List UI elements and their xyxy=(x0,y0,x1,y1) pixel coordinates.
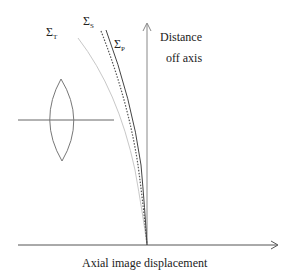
field-curvature-diagram: ΣT ΣS ΣP Distance off axis Axial image d… xyxy=(0,0,293,279)
horizontal-axis-label: Axial image displacement xyxy=(82,256,208,270)
label-sigma-t: ΣT xyxy=(46,25,58,41)
vertical-axis-label-line1: Distance xyxy=(160,30,202,44)
surface-sigma-t-curve xyxy=(78,38,147,245)
surface-sigma-s-curve xyxy=(101,31,147,245)
vertical-axis-label-line2: off axis xyxy=(166,51,202,65)
label-sigma-p: ΣP xyxy=(114,37,125,53)
label-sigma-s: ΣS xyxy=(83,14,94,30)
